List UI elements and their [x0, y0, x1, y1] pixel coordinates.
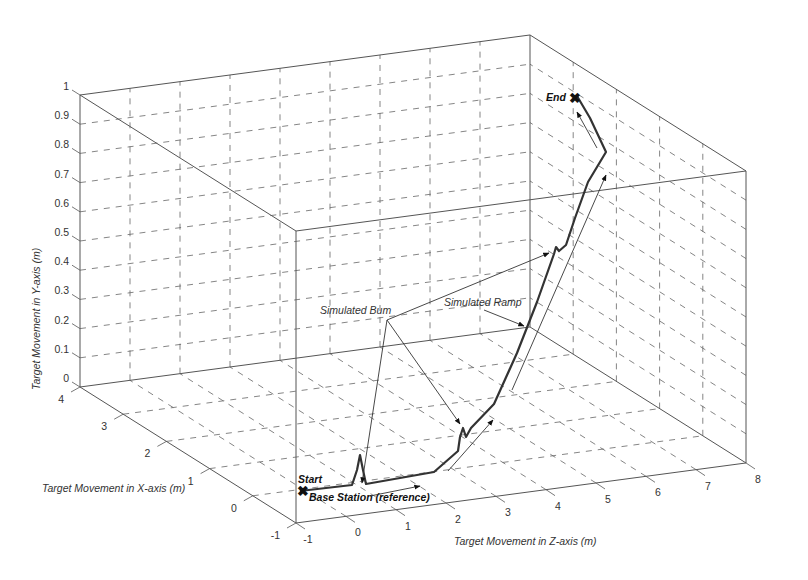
svg-text:0.8: 0.8 [54, 138, 69, 150]
svg-text:0.1: 0.1 [54, 343, 69, 355]
svg-text:2: 2 [145, 447, 151, 459]
svg-text:0.5: 0.5 [54, 226, 69, 238]
svg-text:1: 1 [63, 80, 69, 92]
svg-text:0: 0 [63, 372, 69, 384]
svg-text:0.2: 0.2 [54, 314, 69, 326]
svg-text:1: 1 [405, 520, 411, 532]
svg-text:0: 0 [231, 502, 237, 514]
svg-text:4: 4 [58, 393, 64, 405]
svg-text:0.6: 0.6 [54, 197, 69, 209]
svg-text:-1: -1 [303, 533, 312, 545]
svg-text:6: 6 [655, 486, 661, 498]
svg-text:4: 4 [555, 500, 561, 512]
svg-text:2: 2 [455, 513, 461, 525]
svg-text:0.7: 0.7 [54, 168, 69, 180]
svg-text:8: 8 [755, 473, 761, 485]
svg-text:-1: -1 [271, 529, 280, 541]
end-label: End [546, 91, 566, 103]
svg-text:0: 0 [355, 526, 361, 538]
end-marker-icon: ✖ [569, 90, 581, 106]
svg-text:0.3: 0.3 [54, 284, 69, 296]
svg-text:1: 1 [188, 475, 194, 487]
x-axis-label: Target Movement in X-axis (m) [42, 482, 185, 494]
z-axis-label: Target Movement in Z-axis (m) [454, 535, 597, 547]
grid-lines [80, 42, 746, 517]
start-marker-icon: ✖ [297, 483, 309, 499]
simulated-bump-label: Simulated Bum [320, 304, 391, 316]
svg-text:5: 5 [605, 493, 611, 505]
svg-text:0.4: 0.4 [54, 255, 69, 267]
simulated-ramp-label: Simulated Ramp [444, 296, 522, 308]
svg-text:0.9: 0.9 [54, 109, 69, 121]
y-axis-label: Target Movement in Y-axis (m) [30, 248, 42, 390]
svg-text:7: 7 [705, 480, 711, 492]
svg-text:3: 3 [101, 420, 107, 432]
3d-trajectory-chart: 00.10.20.30.40.50.60.70.80.91-101234-101… [0, 0, 808, 580]
base-station-label: Base Station (reference) [309, 491, 430, 503]
svg-text:3: 3 [505, 506, 511, 518]
